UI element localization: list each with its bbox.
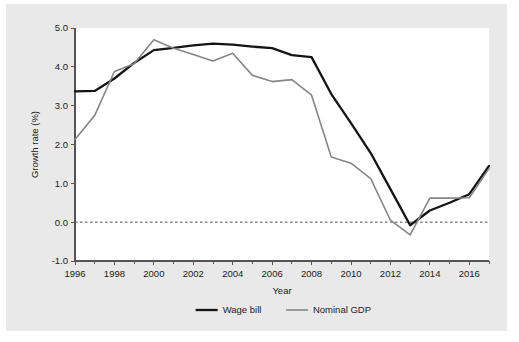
y-tick-label: 4.0 xyxy=(55,61,68,72)
x-tick-label: 1998 xyxy=(104,268,125,279)
y-tick-label: 3.0 xyxy=(55,100,68,111)
x-tick-label: 2006 xyxy=(262,268,283,279)
y-tick-label: 1.0 xyxy=(55,178,68,189)
x-axis-title: Year xyxy=(272,285,291,296)
legend-label-wage-bill: Wage bill xyxy=(223,304,262,315)
x-tick-label: 2004 xyxy=(222,268,243,279)
x-tick-label: 2014 xyxy=(419,268,440,279)
x-tick-label: 1996 xyxy=(64,268,85,279)
plot-area-background xyxy=(75,28,489,261)
legend-label-nominal-gdp: Nominal GDP xyxy=(313,304,371,315)
line-chart: -1.00.01.02.03.04.05.0199619982000200220… xyxy=(0,0,519,342)
x-tick-label: 2012 xyxy=(380,268,401,279)
y-axis-title: Growth rate (%) xyxy=(29,111,40,178)
y-tick-label: -1.0 xyxy=(52,255,68,266)
x-tick-label: 2002 xyxy=(183,268,204,279)
y-tick-label: 2.0 xyxy=(55,139,68,150)
y-tick-label: 5.0 xyxy=(55,22,68,33)
x-tick-label: 2000 xyxy=(143,268,164,279)
y-tick-label: 0.0 xyxy=(55,217,68,228)
x-tick-label: 2010 xyxy=(340,268,361,279)
figure-container: -1.00.01.02.03.04.05.0199619982000200220… xyxy=(0,0,519,342)
chart-plot-wrapper: -1.00.01.02.03.04.05.0199619982000200220… xyxy=(0,0,519,342)
x-tick-label: 2008 xyxy=(301,268,322,279)
x-tick-label: 2016 xyxy=(459,268,480,279)
